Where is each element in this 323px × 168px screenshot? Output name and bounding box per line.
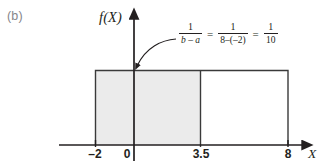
equals-sign-1: = (207, 27, 213, 40)
x-tick-label-mid: 3.5 (193, 147, 210, 161)
fraction-denominator: 10 (264, 35, 278, 45)
x-tick-label-zero: 0 (124, 147, 131, 161)
fraction-denominator: 8–(–2) (218, 35, 247, 45)
x-tick-label-b: 8 (285, 147, 292, 161)
density-formula-annotation: 1 b – a = 1 8–(–2) = 1 10 (178, 22, 279, 45)
x-axis-label: X (308, 146, 316, 162)
figure-panel: nothing know as sense must the cost (0, 0, 323, 168)
fraction-numerator: 1 (186, 22, 195, 33)
y-axis-label: f(X) (99, 9, 122, 26)
fraction-denominator: b – a (179, 35, 202, 45)
unshaded-density-region (201, 71, 289, 146)
equals-sign-2: = (253, 27, 259, 40)
annotation-arrow (137, 39, 176, 66)
fraction-numerator: 1 (228, 22, 237, 33)
fraction-numerator: 1 (266, 22, 275, 33)
x-tick-label-a: –2 (88, 147, 101, 161)
fraction-one-over-b-minus-a: 1 b – a (179, 22, 202, 45)
shaded-density-region (96, 71, 201, 146)
fraction-one-over-ten: 1 10 (264, 22, 278, 45)
fraction-one-over-eight-minus-neg-two: 1 8–(–2) (218, 22, 247, 45)
panel-label: (b) (7, 9, 23, 23)
